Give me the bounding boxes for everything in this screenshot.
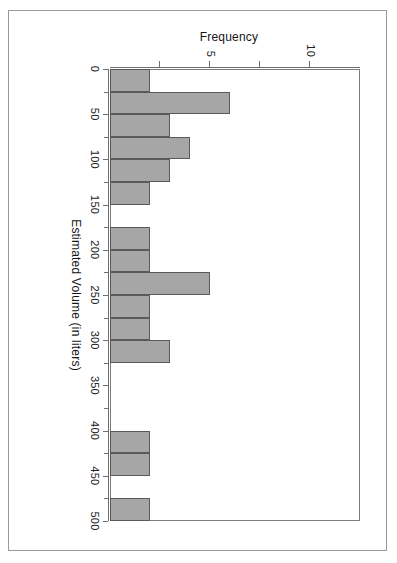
volume-minor-tick bbox=[104, 408, 108, 409]
histogram-bar bbox=[110, 69, 150, 92]
histogram-bar bbox=[110, 272, 210, 295]
histogram-bar bbox=[110, 340, 170, 363]
volume-tick-label: 300 bbox=[89, 320, 100, 360]
volume-tick bbox=[103, 521, 108, 522]
histogram-bar bbox=[110, 159, 170, 182]
histogram-bar bbox=[110, 137, 190, 160]
volume-tick bbox=[103, 69, 108, 70]
volume-minor-tick bbox=[104, 363, 108, 364]
volume-tick bbox=[103, 250, 108, 251]
histogram-bar bbox=[110, 453, 150, 476]
volume-minor-tick bbox=[104, 272, 108, 273]
volume-minor-tick bbox=[104, 318, 108, 319]
volume-minor-tick bbox=[104, 498, 108, 499]
volume-tick-label: 400 bbox=[89, 411, 100, 451]
volume-minor-tick bbox=[104, 92, 108, 93]
frequency-tick bbox=[159, 61, 160, 67]
volume-tick bbox=[103, 385, 108, 386]
volume-tick-label: 250 bbox=[89, 275, 100, 315]
histogram-figure: 510 050100150200250300350400450500 Estim… bbox=[22, 23, 374, 539]
volume-tick-label: 50 bbox=[89, 94, 100, 134]
histogram-bar bbox=[110, 182, 150, 205]
volume-tick-label: 150 bbox=[89, 185, 100, 225]
histogram-bar bbox=[110, 114, 170, 137]
histogram-bar bbox=[110, 227, 150, 250]
bar-series bbox=[110, 69, 360, 521]
volume-tick bbox=[103, 340, 108, 341]
page-canvas: 510 050100150200250300350400450500 Estim… bbox=[0, 0, 397, 563]
rotated-figure-wrapper: 510 050100150200250300350400450500 Estim… bbox=[22, 23, 374, 539]
volume-tick-label: 100 bbox=[89, 139, 100, 179]
volume-minor-tick bbox=[104, 453, 108, 454]
histogram-bar bbox=[110, 318, 150, 341]
volume-tick-label: 500 bbox=[89, 501, 100, 541]
frequency-tick bbox=[209, 61, 210, 67]
volume-tick-label: 350 bbox=[89, 365, 100, 405]
frequency-axis-line bbox=[110, 67, 360, 68]
volume-axis-line bbox=[108, 69, 109, 521]
volume-tick-label: 0 bbox=[89, 49, 100, 89]
histogram-bar bbox=[110, 498, 150, 521]
volume-tick bbox=[103, 476, 108, 477]
frequency-tick bbox=[259, 61, 260, 67]
volume-minor-tick bbox=[104, 182, 108, 183]
volume-tick bbox=[103, 431, 108, 432]
histogram-bar bbox=[110, 92, 230, 115]
frequency-tick bbox=[309, 61, 310, 67]
volume-tick bbox=[103, 295, 108, 296]
histogram-bar bbox=[110, 431, 150, 454]
volume-tick-label: 450 bbox=[89, 456, 100, 496]
volume-minor-tick bbox=[104, 137, 108, 138]
volume-tick-label: 200 bbox=[89, 230, 100, 270]
y-axis-title: Frequency bbox=[129, 31, 329, 43]
histogram-bar bbox=[110, 295, 150, 318]
volume-tick bbox=[103, 205, 108, 206]
volume-minor-tick bbox=[104, 227, 108, 228]
volume-tick bbox=[103, 159, 108, 160]
histogram-bar bbox=[110, 250, 150, 273]
x-axis-title: Estimated Volume (in liters) bbox=[70, 69, 82, 521]
volume-tick bbox=[103, 114, 108, 115]
